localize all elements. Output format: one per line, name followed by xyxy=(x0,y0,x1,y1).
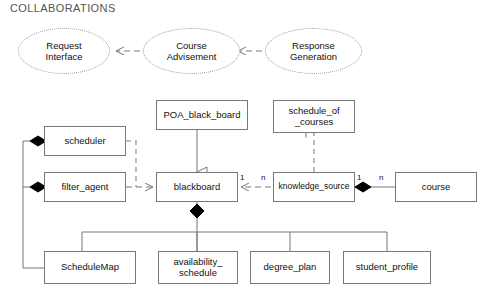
collaboration-request-interface[interactable]: Request Interface xyxy=(18,28,110,74)
class-knowledge-source[interactable]: knowledge_source xyxy=(273,172,355,202)
class-filter-agent-label: filter_agent xyxy=(58,182,111,193)
link-schedule-map-to-agents xyxy=(23,136,46,268)
class-degree-plan[interactable]: degree_plan xyxy=(250,251,330,284)
multiplicity-course-side: n xyxy=(379,173,383,182)
collaboration-request-interface-label: Request Interface xyxy=(46,40,83,63)
class-scheduler-label: scheduler xyxy=(61,136,108,147)
class-filter-agent[interactable]: filter_agent xyxy=(44,172,126,202)
class-course-label: course xyxy=(419,182,454,193)
multiplicity-knowledge-source-course-side: 1 xyxy=(357,173,361,182)
class-blackboard-label: blackboard xyxy=(171,182,223,193)
link-scheduler-to-blackboard xyxy=(126,141,136,187)
class-degree-plan-label: degree_plan xyxy=(261,262,320,273)
collaboration-course-advisement[interactable]: Course Advisement xyxy=(143,28,240,74)
collaboration-course-advisement-label: Course Advisement xyxy=(167,40,217,63)
class-scheduler[interactable]: scheduler xyxy=(44,126,126,156)
class-blackboard[interactable]: blackboard xyxy=(156,172,238,202)
collaboration-response-generation[interactable]: Response Generation xyxy=(265,28,362,74)
collaboration-response-generation-label: Response Generation xyxy=(290,40,337,63)
class-schedule-of-courses[interactable]: schedule_of _courses xyxy=(273,100,355,133)
class-student-profile[interactable]: student_profile xyxy=(343,251,431,284)
class-knowledge-source-label: knowledge_source xyxy=(276,182,353,192)
multiplicity-knowledge-source-side: n xyxy=(261,173,265,182)
class-schedule-of-courses-label: schedule_of _courses xyxy=(285,106,342,128)
class-availability-schedule[interactable]: availability_ schedule xyxy=(158,251,238,284)
bottom-parts-bus xyxy=(82,232,387,251)
class-course[interactable]: course xyxy=(395,172,477,202)
class-schedule-map-label: ScheduleMap xyxy=(58,262,122,273)
class-student-profile-label: student_profile xyxy=(353,262,421,273)
multiplicity-blackboard-side: 1 xyxy=(240,173,244,182)
class-schedule-map[interactable]: ScheduleMap xyxy=(44,251,136,284)
class-poa-black-board-label: POA_black_board xyxy=(160,110,243,121)
class-poa-black-board[interactable]: POA_black_board xyxy=(156,100,248,130)
link-knowledge-source-to-course xyxy=(355,182,395,192)
class-availability-schedule-label: availability_ schedule xyxy=(170,257,225,279)
diagram-canvas: COLLABORATIONS xyxy=(0,0,495,299)
